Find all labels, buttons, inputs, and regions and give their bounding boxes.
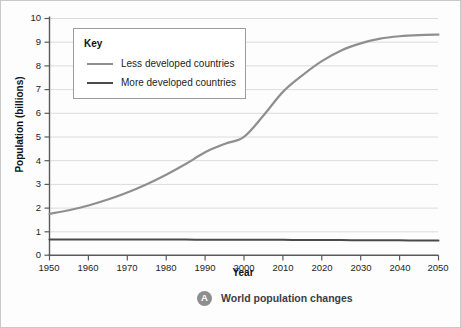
x-tick-label-2040: 2040 (380, 263, 420, 273)
legend-label-less-developed: Less developed countries (121, 57, 234, 71)
x-axis-ticks (50, 255, 439, 260)
x-axis-title: Year (193, 267, 293, 278)
y-axis-title: Population (billions) (14, 65, 25, 185)
y-tick-label-1: 1 (19, 227, 41, 237)
x-tick-label-1950: 1950 (29, 263, 69, 273)
series-more-developed-countries-line (50, 240, 439, 241)
figure-page: 10 9 8 7 6 5 4 3 2 1 0 1950 1960 1970 19… (0, 0, 461, 328)
caption-text: World population changes (221, 292, 353, 304)
legend-swatch-less-developed (87, 63, 113, 65)
x-tick-label-1970: 1970 (107, 263, 147, 273)
y-tick-label-9: 9 (19, 37, 41, 47)
y-tick-label-2: 2 (19, 203, 41, 213)
x-tick-label-2030: 2030 (341, 263, 381, 273)
legend-label-more-developed: More developed countries (121, 76, 236, 90)
y-tick-label-10: 10 (19, 13, 41, 23)
x-tick-label-1980: 1980 (146, 263, 186, 273)
chart-legend: Key Less developed countries More develo… (73, 28, 246, 99)
y-tick-label-0: 0 (19, 250, 41, 260)
x-tick-label-2050: 2050 (418, 263, 458, 273)
x-tick-label-2020: 2020 (302, 263, 342, 273)
legend-title: Key (84, 38, 102, 49)
caption-badge-icon: A (197, 291, 212, 306)
y-axis-ticks (45, 19, 50, 256)
x-tick-label-1960: 1960 (68, 263, 108, 273)
figure-caption: A World population changes (197, 290, 353, 306)
population-chart-figure: 10 9 8 7 6 5 4 3 2 1 0 1950 1960 1970 19… (1, 1, 461, 328)
legend-swatch-more-developed (87, 82, 113, 84)
